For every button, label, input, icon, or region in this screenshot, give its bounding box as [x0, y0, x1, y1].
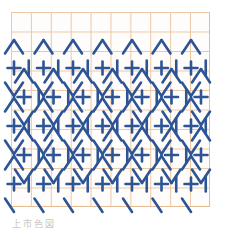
graph-paper-grid — [11, 12, 210, 207]
pattern-swatch: 上市色図 — [0, 0, 227, 230]
swatch-caption: 上市色図 — [12, 218, 132, 230]
